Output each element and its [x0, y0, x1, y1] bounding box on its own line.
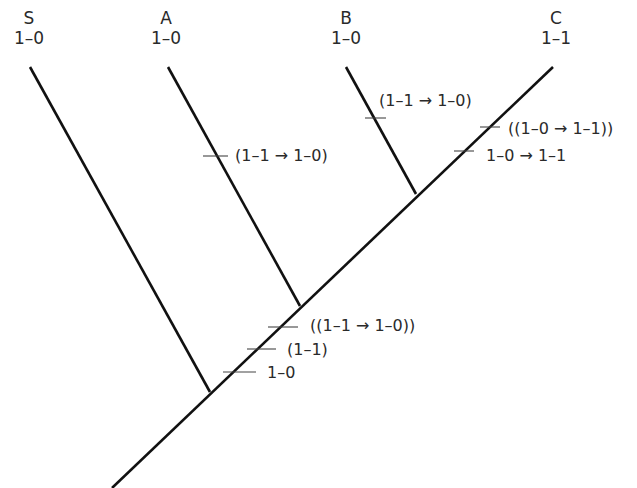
event-branch-c-upper: ((1–0 → 1–1))	[508, 120, 613, 138]
event-branch-c-lower: 1–0 → 1–1	[486, 147, 566, 165]
branch-a	[168, 67, 300, 306]
taxon-s-state: 1–0	[14, 28, 44, 48]
taxon-b: B 1–0	[331, 8, 361, 48]
taxon-b-name: B	[340, 8, 352, 28]
taxon-c: C 1–1	[541, 8, 571, 48]
event-branch-b: (1–1 → 1–0)	[379, 92, 472, 110]
backbone-branch-c	[112, 67, 553, 488]
taxon-a-name: A	[160, 8, 172, 28]
branch-s	[30, 67, 210, 392]
taxon-s-name: S	[24, 8, 35, 28]
taxon-b-state: 1–0	[331, 28, 361, 48]
taxon-c-name: C	[550, 8, 562, 28]
event-stem-lower: 1–0	[267, 364, 295, 382]
event-branch-a: (1–1 → 1–0)	[235, 147, 328, 165]
event-stem-upper: ((1–1 → 1–0))	[310, 317, 415, 335]
branch-b	[346, 67, 416, 194]
tree-diagram	[0, 0, 637, 488]
taxon-a: A 1–0	[151, 8, 181, 48]
taxon-s: S 1–0	[14, 8, 44, 48]
taxon-a-state: 1–0	[151, 28, 181, 48]
event-stem-middle: (1–1)	[287, 341, 328, 359]
taxon-c-state: 1–1	[541, 28, 571, 48]
